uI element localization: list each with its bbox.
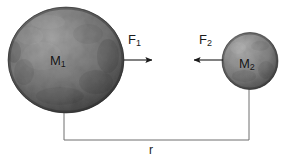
force-one-label: F1: [128, 31, 141, 48]
mass-two-label-subscript: 2: [250, 62, 255, 72]
mass-one-label-base: M: [50, 53, 61, 68]
force-two-label-subscript: 2: [207, 38, 212, 48]
mass-one-label: M1: [50, 52, 66, 69]
diagram-canvas: [0, 0, 285, 162]
force-one-label-subscript: 1: [136, 38, 141, 48]
force-two-label-base: F: [199, 32, 207, 47]
distance-label-text: r: [149, 143, 153, 157]
distance-label: r: [149, 141, 153, 157]
mass-two-label: M2: [239, 55, 255, 72]
mass-one-label-subscript: 1: [61, 59, 66, 69]
force-one-label-base: F: [128, 32, 136, 47]
physics-diagram-gravitation: M1 M2 F1 F2 r: [0, 0, 285, 162]
force-two-label: F2: [199, 31, 212, 48]
mass-two-label-base: M: [239, 56, 250, 71]
